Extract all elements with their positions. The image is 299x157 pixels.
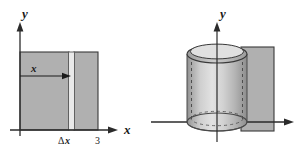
cylindrical-shell-svg: y <box>149 0 299 157</box>
cylindrical-shell-diagram: y <box>149 0 299 157</box>
region-rect-right <box>74 52 98 130</box>
strip-distance-label: x <box>30 62 37 74</box>
plane-region-diagram: y x x 3 Δx <box>0 0 150 157</box>
x-axis-label: x <box>123 122 131 137</box>
delta-variable: x <box>64 135 70 146</box>
y-axis-label-right: y <box>218 6 226 21</box>
plane-region-svg: y x x 3 Δx <box>0 0 150 157</box>
y-axis-arrowhead-right <box>214 22 221 32</box>
region-rect-left <box>20 52 69 130</box>
y-axis-arrowhead <box>17 22 24 32</box>
x-tick-label-3: 3 <box>95 135 100 146</box>
x-axis-arrowhead-right <box>284 119 294 126</box>
representative-strip <box>69 52 75 130</box>
x-axis-arrowhead <box>108 127 118 134</box>
shell-method-figure: y x x 3 Δx <box>0 0 299 157</box>
delta-symbol: Δ <box>58 135 65 146</box>
strip-width-label: Δx <box>58 135 70 146</box>
y-axis-label: y <box>20 6 28 21</box>
